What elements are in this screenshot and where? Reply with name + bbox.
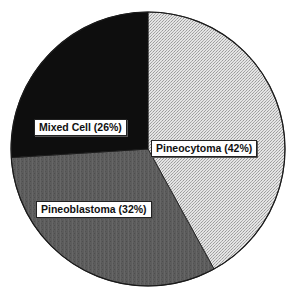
label-mixed-cell: Mixed Cell (26%) — [34, 119, 127, 136]
label-pineoblastoma: Pineoblastoma (32%) — [36, 201, 152, 218]
label-pineocytoma: Pineocytoma (42%) — [151, 140, 257, 157]
